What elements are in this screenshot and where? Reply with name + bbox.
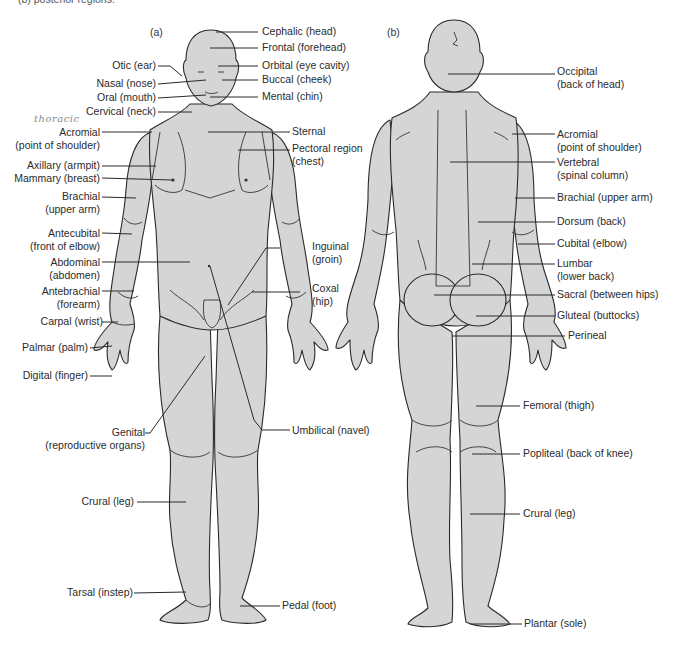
label-umbilical: Umbilical (navel) xyxy=(292,424,370,437)
label-gluteal: Gluteal (buttocks) xyxy=(557,309,639,322)
label-antebrachial: Antebrachial(forearm) xyxy=(42,285,100,311)
label-mental: Mental (chin) xyxy=(262,90,323,103)
label-tarsal: Tarsal (instep) xyxy=(67,586,133,599)
label-antecubital: Antecubital(front of elbow) xyxy=(30,227,100,253)
label-popliteal: Popliteal (back of knee) xyxy=(523,447,633,460)
anterior-right-leg xyxy=(215,316,267,623)
label-plantar: Plantar (sole) xyxy=(524,617,586,630)
label-acromial: Acromial(point of shoulder) xyxy=(15,126,100,152)
label-otic: Otic (ear) xyxy=(112,59,156,72)
anterior-head xyxy=(183,30,238,106)
label-dorsum: Dorsum (back) xyxy=(557,215,626,228)
label-lumbar: Lumbar(lower back) xyxy=(557,257,614,283)
label-acromial-posterior: Acromial(point of shoulder) xyxy=(557,128,642,154)
label-cervical: Cervical (neck) xyxy=(86,105,156,118)
label-digital: Digital (finger) xyxy=(23,369,88,382)
anterior-left-arm xyxy=(94,132,152,370)
posterior-right-leg xyxy=(456,300,512,627)
label-abdominal: Abdominal(abdomen) xyxy=(49,256,100,282)
label-frontal: Frontal (forehead) xyxy=(262,41,346,54)
label-buccal: Buccal (cheek) xyxy=(262,73,331,86)
label-genital: Genital(reproductive organs) xyxy=(45,426,145,452)
label-crural-anterior: Crural (leg) xyxy=(81,495,134,508)
label-femoral: Femoral (thigh) xyxy=(523,399,594,412)
label-occipital: Occipital(back of head) xyxy=(557,65,624,91)
label-palmar: Palmar (palm) xyxy=(22,341,88,354)
anterior-body xyxy=(94,30,328,623)
label-brachial: Brachial(upper arm) xyxy=(45,190,100,216)
label-oral: Oral (mouth) xyxy=(97,91,156,104)
label-vertebral: Vertebral(spinal column) xyxy=(557,156,628,182)
posterior-body xyxy=(336,20,566,627)
label-axillary: Axillary (armpit) xyxy=(27,159,100,172)
label-cubital: Cubital (elbow) xyxy=(557,237,627,250)
label-pedal: Pedal (foot) xyxy=(282,599,336,612)
label-cephalic: Cephalic (head) xyxy=(262,25,336,38)
label-brachial-posterior: Brachial (upper arm) xyxy=(557,191,653,204)
label-mammary: Mammary (breast) xyxy=(14,172,100,185)
anterior-torso xyxy=(149,104,273,330)
label-carpal: Carpal (wrist) xyxy=(41,315,103,328)
label-sacral: Sacral (between hips) xyxy=(557,288,659,301)
label-inguinal: Inguinal(groin) xyxy=(312,240,349,266)
anterior-left-leg xyxy=(158,316,213,623)
label-pectoral: Pectoral region(chest) xyxy=(292,142,363,168)
label-orbital: Orbital (eye cavity) xyxy=(262,59,350,72)
posterior-left-leg xyxy=(398,300,453,627)
label-sternal: Sternal xyxy=(292,125,325,138)
label-coxal: Coxal(hip) xyxy=(312,282,339,308)
label-crural-posterior: Crural (leg) xyxy=(523,507,576,520)
label-perineal: Perineal xyxy=(568,329,607,342)
label-nasal: Nasal (nose) xyxy=(96,77,156,90)
posterior-head xyxy=(425,20,484,92)
gluteal-right xyxy=(450,274,506,326)
